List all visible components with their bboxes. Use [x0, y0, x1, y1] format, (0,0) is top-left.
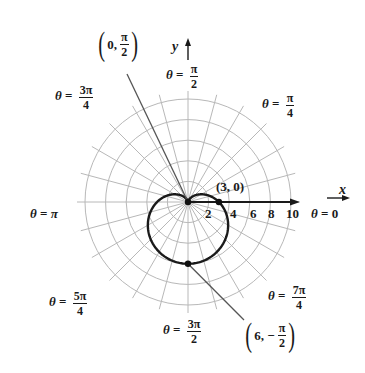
point-label-0-pi-over-2: ( 0, π2 ) [96, 27, 140, 61]
angle-label-5pi-over-4: θ = 5π4 [49, 290, 87, 317]
grid-radial-line [188, 95, 217, 202]
point-label-6-neg-pi-over-2: ( 6, − π2 ) [243, 318, 298, 352]
angle-label-7pi-over-4: θ = 7π4 [268, 284, 306, 311]
angle-label-0: θ = 0 [311, 207, 338, 220]
x-tick-10: 10 [286, 207, 299, 220]
leader-line-6-neg-pi-over-2 [188, 264, 244, 320]
angle-label-3pi-over-2: θ = 3π2 [163, 318, 201, 345]
x-tick-4: 4 [230, 207, 237, 220]
point-origin [185, 199, 191, 205]
y-axis-label: y [172, 40, 178, 54]
angle-label-pi-over-4: θ = π4 [262, 92, 294, 119]
grid-radial-line [81, 202, 188, 231]
polar-axis-arrow-icon [290, 199, 300, 206]
x-tick-6: 6 [250, 207, 257, 220]
x-tick-8: 8 [268, 207, 275, 220]
leader-lines [127, 74, 244, 320]
angle-label-pi-over-2: θ = π2 [166, 63, 198, 90]
grid-radial-line [159, 95, 188, 202]
point-3-0 [216, 199, 222, 205]
angle-label-pi: θ = π [30, 207, 58, 220]
y-axis-arrow-icon [185, 38, 191, 46]
grid-radial-line [81, 173, 188, 202]
point-label-3-0: (3, 0) [216, 180, 244, 193]
angle-label-3pi-over-4: θ = 3π4 [55, 84, 93, 111]
x-tick-2: 2 [205, 207, 212, 220]
point-6-neg-pi-over-2 [185, 261, 191, 267]
x-axis-label: x [339, 183, 346, 197]
